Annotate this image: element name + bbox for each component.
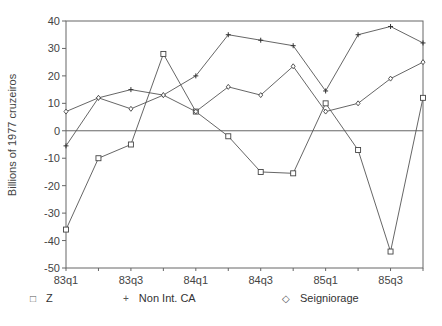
y-tick-label: -30: [44, 207, 60, 219]
x-tick-label: 85q1: [313, 274, 337, 286]
x-tick-label: 84q3: [248, 274, 272, 286]
y-tick-label: -40: [44, 235, 60, 247]
square-marker-icon: [64, 227, 69, 232]
y-tick-label: -50: [44, 262, 60, 274]
y-tick-label: -10: [44, 152, 60, 164]
square-marker-icon: [421, 95, 426, 100]
diamond-marker-icon: [421, 60, 425, 65]
series-seigniorage: [64, 60, 425, 114]
line-chart: 403020100-10-20-30-40-5083q183q384q184q3…: [0, 0, 442, 326]
legend: □ Z + Non Int. CA ◇ Seigniorage: [0, 292, 442, 310]
x-tick-label: 83q3: [119, 274, 143, 286]
square-marker-icon: [258, 169, 263, 174]
legend-label: Seigniorage: [300, 292, 359, 304]
diamond-marker-icon: [226, 84, 230, 89]
y-tick-label: -20: [44, 180, 60, 192]
legend-label: Z: [46, 292, 53, 304]
series-group: [64, 24, 426, 254]
square-marker-icon: [291, 171, 296, 176]
diamond-marker-icon: [356, 101, 360, 106]
plus-marker-icon: [421, 40, 426, 45]
x-tick-label: 84q1: [184, 274, 208, 286]
plus-marker-icon: [388, 24, 393, 29]
legend-item-non-int-ca: + Non Int. CA: [123, 292, 196, 304]
diamond-marker-icon: [161, 93, 165, 98]
axes: 403020100-10-20-30-40-5083q183q384q184q3…: [44, 15, 423, 286]
plus-marker-icon: [258, 38, 263, 43]
x-tick-label: 83q1: [54, 274, 78, 286]
y-tick-label: 20: [48, 70, 60, 82]
y-tick-label: 0: [54, 125, 60, 137]
series-non-int-ca: [64, 24, 426, 148]
y-tick-label: 30: [48, 42, 60, 54]
square-marker-icon: [388, 249, 393, 254]
plus-marker-icon: [128, 87, 133, 92]
plot-frame: [66, 21, 423, 268]
diamond-marker-icon: [64, 109, 68, 114]
square-marker-icon: [128, 142, 133, 147]
legend-label: Non Int. CA: [139, 292, 196, 304]
legend-item-z: □ Z: [30, 292, 53, 304]
series-z: [64, 51, 426, 254]
plus-marker-icon: +: [123, 293, 129, 304]
square-marker-icon: [161, 51, 166, 56]
square-marker-icon: □: [30, 293, 36, 304]
diamond-marker-icon: [389, 76, 393, 81]
diamond-marker-icon: ◇: [282, 293, 290, 304]
square-marker-icon: [356, 147, 361, 152]
x-tick-label: 85q3: [378, 274, 402, 286]
y-tick-label: 10: [48, 97, 60, 109]
plus-marker-icon: [64, 143, 69, 148]
y-axis-label: Billions of 1977 cruzeiros: [3, 40, 21, 230]
square-marker-icon: [96, 156, 101, 161]
square-marker-icon: [226, 134, 231, 139]
diamond-marker-icon: [129, 106, 133, 111]
legend-item-seigniorage: ◇ Seigniorage: [282, 292, 359, 304]
plus-marker-icon: [356, 32, 361, 37]
y-tick-label: 40: [48, 15, 60, 27]
square-marker-icon: [323, 101, 328, 106]
